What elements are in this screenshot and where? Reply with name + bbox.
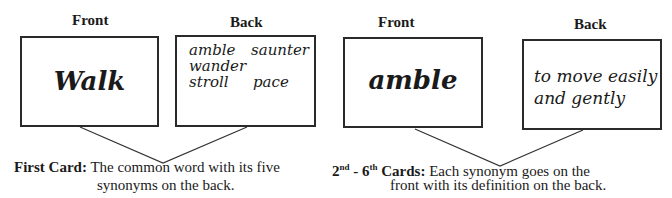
caption-num2: 6 (362, 163, 370, 179)
front-header-2: Front (378, 14, 414, 31)
front-word: Walk (22, 66, 157, 96)
caption-first-card: First Card: The common word with its fiv… (14, 158, 280, 177)
card-back-synonyms: amble saunter wander stroll pace (175, 35, 316, 127)
front-word: amble (345, 65, 481, 95)
caption-sup1: nd (340, 162, 350, 172)
caption-text: The common word with its five (90, 159, 280, 175)
definition: to move easily and gently (534, 65, 657, 109)
caption-sup2: th (370, 162, 378, 172)
caption-first-card-line2: synonyms on the back. (97, 176, 234, 195)
caption-num1: 2 (332, 163, 340, 179)
back-header-1: Back (230, 14, 263, 31)
definition-line-2: and gently (534, 87, 657, 109)
synonym: saunter (251, 41, 309, 59)
caption-dash: - (350, 163, 363, 179)
front-header-1: Front (72, 12, 108, 29)
card-front-walk: Walk (20, 36, 159, 127)
definition-line-1: to move easily (534, 65, 657, 87)
back-header-2: Back (574, 16, 607, 33)
synonym: stroll (189, 73, 229, 91)
card-back-definition: to move easily and gently (522, 39, 662, 130)
caption-bold: First Card: (14, 159, 87, 175)
synonym: pace (253, 73, 289, 91)
caption-other-cards-line2: front with its definition on the back. (390, 176, 606, 195)
card-front-amble: amble (343, 37, 483, 128)
